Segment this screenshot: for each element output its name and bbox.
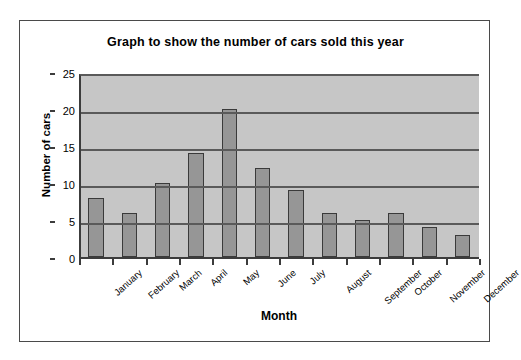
bar-slot[interactable] — [81, 76, 114, 257]
gridline — [81, 149, 479, 151]
bar[interactable] — [422, 227, 437, 257]
x-axis-category-label: August — [344, 267, 373, 295]
x-axis-title: Month — [79, 309, 479, 323]
bar[interactable] — [222, 109, 237, 257]
bar[interactable] — [88, 198, 103, 257]
bar[interactable] — [322, 213, 337, 257]
bar-slot[interactable] — [314, 76, 347, 257]
bar[interactable] — [355, 220, 370, 257]
bar-slot[interactable] — [114, 76, 147, 257]
x-axis-category-label: November — [448, 267, 488, 305]
plot-area — [79, 74, 479, 259]
bar[interactable] — [388, 213, 403, 257]
x-axis-tick-mark — [479, 259, 481, 265]
chart-frame: Graph to show the number of cars sold th… — [19, 20, 490, 342]
x-axis-tick-mark — [312, 259, 314, 265]
y-axis-tick-labels: 0510152025 — [47, 74, 75, 259]
chart-title: Graph to show the number of cars sold th… — [20, 35, 491, 49]
x-axis-category-label: December — [481, 267, 521, 305]
x-axis-category-label: June — [275, 267, 298, 289]
bar[interactable] — [155, 183, 170, 257]
x-axis-category-label: March — [176, 267, 203, 293]
x-axis-tick-mark — [346, 259, 348, 265]
gridline — [81, 223, 479, 225]
x-axis-category-labels: JanuaryFebruaryMarchAprilMayJuneJulyAugu… — [79, 267, 479, 313]
bar[interactable] — [455, 235, 470, 257]
x-axis-category-label: January — [112, 267, 144, 298]
x-axis-tick-mark — [246, 259, 248, 265]
y-axis-tick-mark — [50, 221, 55, 223]
x-axis-tick-mark — [112, 259, 114, 265]
y-axis-tick-mark — [50, 258, 55, 260]
y-axis-tick-mark — [50, 147, 55, 149]
bar-slot[interactable] — [181, 76, 214, 257]
x-axis-tick-mark — [146, 259, 148, 265]
bar-slot[interactable] — [214, 76, 247, 257]
x-axis-tick-mark — [212, 259, 214, 265]
bar-slot[interactable] — [281, 76, 314, 257]
y-axis-tick-mark — [50, 110, 55, 112]
bar[interactable] — [122, 213, 137, 257]
x-axis-category-label: April — [208, 267, 229, 288]
x-axis-tick-mark — [412, 259, 414, 265]
x-axis-category-label: July — [307, 267, 327, 286]
bar-slot[interactable] — [348, 76, 381, 257]
x-axis-tick-mark — [79, 259, 81, 265]
bar[interactable] — [188, 153, 203, 257]
x-axis-tick-mark — [446, 259, 448, 265]
x-axis-tick-mark — [279, 259, 281, 265]
x-axis-category-label: May — [241, 267, 262, 287]
y-axis-tick-mark — [50, 73, 55, 75]
bar-slot[interactable] — [148, 76, 181, 257]
y-axis-tick-mark — [50, 184, 55, 186]
x-axis-tick-mark — [179, 259, 181, 265]
gridline — [81, 112, 479, 114]
bar[interactable] — [255, 168, 270, 257]
bar-slot[interactable] — [448, 76, 481, 257]
gridline — [81, 186, 479, 188]
bar-slot[interactable] — [381, 76, 414, 257]
bar-slot[interactable] — [248, 76, 281, 257]
bars-layer — [81, 76, 479, 257]
x-axis-tick-mark — [379, 259, 381, 265]
bar-slot[interactable] — [414, 76, 447, 257]
